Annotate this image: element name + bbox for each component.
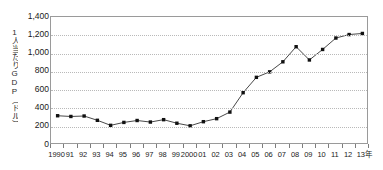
x-tick-mark — [328, 144, 329, 148]
gridline — [51, 54, 367, 55]
data-point-marker — [215, 117, 218, 120]
data-point-marker — [334, 36, 337, 39]
data-point-marker — [321, 48, 324, 51]
gridline — [51, 90, 367, 91]
data-point-marker — [228, 110, 231, 113]
x-tick-mark — [315, 144, 316, 148]
x-tick-mark — [249, 144, 250, 148]
x-tick-mark — [262, 144, 263, 148]
x-tick-mark — [289, 144, 290, 148]
y-axis-tick-labels: 1,4001,2001,0008006004002000 — [18, 0, 49, 170]
x-tick-mark — [116, 144, 117, 148]
y-tick-label: 400 — [35, 103, 49, 112]
x-tick-mark — [236, 144, 237, 148]
y-tick-label: 800 — [35, 66, 49, 75]
y-tick-label: 1,400 — [28, 12, 49, 21]
data-point-marker — [135, 119, 138, 122]
x-tick-mark — [169, 144, 170, 148]
data-point-marker — [281, 60, 284, 63]
gridline — [51, 108, 367, 109]
data-point-marker — [255, 76, 258, 79]
x-tick-mark — [302, 144, 303, 148]
x-tick-mark — [90, 144, 91, 148]
data-point-marker — [241, 91, 244, 94]
data-point-marker — [162, 118, 165, 121]
data-point-marker — [82, 114, 85, 117]
data-point-marker — [96, 119, 99, 122]
x-tick-mark — [368, 144, 369, 148]
gridline — [51, 72, 367, 73]
x-tick-mark — [196, 144, 197, 148]
x-tick-mark — [275, 144, 276, 148]
data-point-marker — [294, 45, 297, 48]
x-tick-mark — [143, 144, 144, 148]
data-point-marker — [122, 121, 125, 124]
x-axis-unit-label: 年 — [365, 150, 372, 159]
data-point-marker — [202, 120, 205, 123]
y-tick-label: 1,200 — [28, 30, 49, 39]
data-point-marker — [175, 122, 178, 125]
plot-area — [50, 16, 368, 144]
x-tick-mark — [130, 144, 131, 148]
x-tick-mark — [222, 144, 223, 148]
chart-container: 1人当たりGDP（ドル） 1,4001,2001,000800600400200… — [0, 0, 383, 170]
x-tick-mark — [156, 144, 157, 148]
gridline — [51, 127, 367, 128]
x-tick-mark — [63, 144, 64, 148]
x-axis-ticks — [50, 144, 368, 149]
gridline — [51, 35, 367, 36]
x-tick-mark — [209, 144, 210, 148]
x-tick-mark — [183, 144, 184, 148]
data-point-marker — [308, 58, 311, 61]
x-tick-label: 13年 — [351, 150, 377, 159]
x-tick-mark — [50, 144, 51, 148]
data-point-marker — [69, 115, 72, 118]
y-tick-label: 0 — [44, 140, 49, 149]
y-tick-label: 1,000 — [28, 48, 49, 57]
x-tick-mark — [77, 144, 78, 148]
x-tick-mark — [103, 144, 104, 148]
x-axis-tick-labels: 1990919293949596979899200001020304050607… — [0, 150, 383, 164]
data-point-marker — [149, 120, 152, 123]
x-tick-mark — [355, 144, 356, 148]
data-point-marker — [56, 114, 59, 117]
x-tick-mark — [342, 144, 343, 148]
y-tick-label: 600 — [35, 85, 49, 94]
y-tick-label: 200 — [35, 121, 49, 130]
series-polyline — [58, 33, 363, 125]
y-axis-title: 1人当たりGDP（ドル） — [2, 22, 18, 134]
